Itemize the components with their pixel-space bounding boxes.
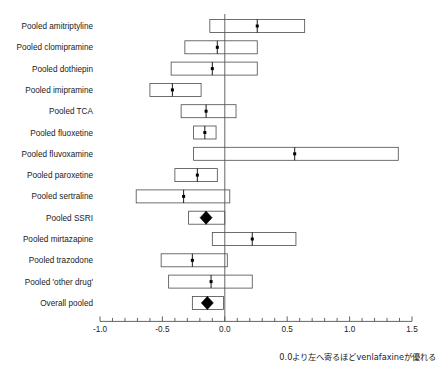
point-estimate-marker bbox=[203, 131, 206, 134]
row-label: Pooled fluvoxamine bbox=[22, 150, 94, 159]
row-label: Pooled trazodone bbox=[29, 256, 94, 265]
row-label: Pooled mirtazapine bbox=[23, 235, 94, 244]
point-estimate-marker bbox=[251, 238, 254, 241]
row-label: Pooled fluoxetine bbox=[30, 129, 93, 138]
confidence-interval-box bbox=[171, 62, 257, 75]
forest-row: Pooled fluvoxamine bbox=[22, 147, 399, 160]
point-estimate-marker bbox=[211, 67, 214, 70]
row-label: Pooled amitriptyline bbox=[22, 22, 94, 31]
forest-plot: Pooled amitriptylinePooled clomipramineP… bbox=[0, 0, 444, 374]
row-label: Overall pooled bbox=[40, 299, 93, 308]
plot-background bbox=[0, 0, 444, 374]
axis-tick-label: 1.0 bbox=[344, 325, 356, 334]
point-estimate-marker bbox=[171, 88, 174, 91]
confidence-interval-box bbox=[150, 83, 201, 96]
row-label: Pooled clomipramine bbox=[17, 43, 94, 52]
point-estimate-marker bbox=[191, 259, 194, 262]
row-label: Pooled imipramine bbox=[25, 86, 93, 95]
axis-tick-label: 0.0 bbox=[219, 325, 231, 334]
row-label: Pooled paroxetine bbox=[27, 171, 93, 180]
point-estimate-marker bbox=[205, 110, 208, 113]
point-estimate-marker bbox=[196, 174, 199, 177]
axis-tick-label: 1.5 bbox=[406, 325, 418, 334]
axis-tick-label: -0.5 bbox=[155, 325, 170, 334]
confidence-interval-box bbox=[161, 254, 227, 267]
confidence-interval-box bbox=[181, 105, 236, 118]
row-label: Pooled SSRI bbox=[46, 214, 93, 223]
point-estimate-marker bbox=[256, 25, 259, 28]
axis-tick-label: -1.0 bbox=[93, 325, 108, 334]
point-estimate-marker bbox=[182, 195, 185, 198]
row-label: Pooled 'other drug' bbox=[25, 278, 94, 287]
point-estimate-marker bbox=[216, 46, 219, 49]
point-estimate-marker bbox=[210, 280, 213, 283]
row-label: Pooled TCA bbox=[49, 107, 94, 116]
row-label: Pooled sertraline bbox=[32, 192, 94, 201]
confidence-interval-box bbox=[185, 41, 257, 54]
point-estimate-marker bbox=[293, 152, 296, 155]
axis-caption: 0.0より左へ寄るほどvenlafaxineが優れる bbox=[279, 352, 436, 362]
row-label: Pooled dothiepin bbox=[32, 65, 93, 74]
axis-tick-label: 0.5 bbox=[282, 325, 294, 334]
